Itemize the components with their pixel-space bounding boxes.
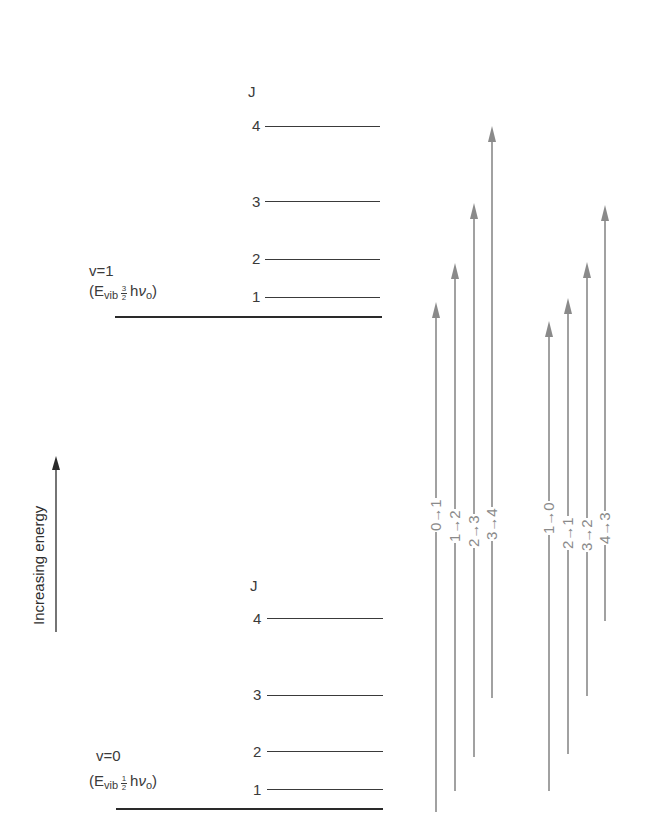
arrowhead-icon — [470, 203, 478, 219]
transition-label: 3→2 — [579, 518, 594, 552]
transition-label: 2→3 — [466, 514, 481, 548]
arrowhead-icon — [451, 263, 459, 279]
upper-level-j1 — [265, 297, 380, 298]
frac-num: 1 — [121, 775, 127, 783]
lower-energy-label: (Evib12hνo) — [89, 772, 157, 794]
transition-label: 3→4 — [484, 507, 499, 541]
transition-label: 4→3 — [597, 511, 612, 545]
energy-close: ) — [152, 282, 157, 299]
lower-j-label: 3 — [253, 687, 261, 702]
lower-j-label: 2 — [253, 744, 261, 759]
energy-axis-arrowhead-icon — [52, 456, 60, 470]
arrowhead-icon — [545, 321, 553, 337]
lower-level-j1 — [267, 789, 383, 790]
upper-level-j2 — [265, 259, 380, 260]
frac-num: 3 — [121, 285, 127, 293]
lower-v-label: v=0 — [96, 747, 121, 764]
energy-nu: ν — [138, 772, 146, 789]
energy-open: (E — [89, 772, 104, 789]
transition-label: 2→1 — [560, 516, 575, 550]
upper-j-header: J — [248, 84, 256, 99]
energy-sub: vib — [104, 289, 118, 301]
transition-label: 1→2 — [447, 509, 462, 543]
energy-axis-label: Increasing energy — [30, 506, 47, 625]
arrowhead-icon — [583, 262, 591, 278]
lower-j-label: 4 — [253, 611, 261, 626]
energy-sub: vib — [104, 779, 118, 791]
upper-v-label: v=1 — [89, 262, 114, 279]
transition-label: 1→0 — [541, 501, 556, 535]
transition-label: 0→1 — [428, 498, 443, 532]
energy-close: ) — [152, 772, 157, 789]
arrowhead-icon — [488, 126, 496, 142]
lower-level-j3 — [267, 695, 383, 696]
upper-level-j3 — [265, 201, 380, 202]
upper-vibrational-base-level — [115, 316, 382, 318]
frac-den: 2 — [121, 294, 127, 302]
arrowhead-icon — [564, 298, 572, 314]
energy-nu: ν — [138, 282, 146, 299]
fraction: 12 — [121, 775, 127, 792]
lower-j-label: 1 — [253, 782, 261, 797]
upper-j-label: 1 — [252, 289, 260, 304]
energy-open: (E — [89, 282, 104, 299]
lower-j-header: J — [250, 578, 258, 593]
upper-energy-label: (Evib32hνo) — [89, 282, 157, 304]
upper-level-j4 — [265, 126, 380, 127]
lower-level-j4 — [267, 618, 383, 619]
lower-level-j2 — [267, 751, 383, 752]
upper-j-label: 4 — [252, 118, 260, 133]
arrowhead-icon — [432, 302, 440, 318]
upper-j-label: 2 — [252, 251, 260, 266]
frac-den: 2 — [121, 784, 127, 792]
arrowhead-icon — [601, 205, 609, 221]
lower-vibrational-base-level — [116, 808, 383, 810]
upper-j-label: 3 — [252, 194, 260, 209]
fraction: 32 — [121, 285, 127, 302]
